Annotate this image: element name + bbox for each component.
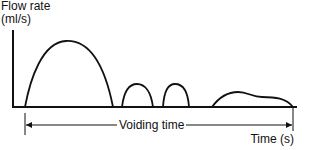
voiding-time-label: Voiding time (117, 118, 186, 132)
flow-curve-main (25, 41, 113, 107)
arrow-left-icon (26, 122, 32, 128)
arrow-right-icon (286, 122, 292, 128)
flow-curve-hump-3 (163, 84, 189, 107)
flow-curve-hump-4 (212, 92, 293, 107)
flow-curve-hump-2 (122, 84, 153, 107)
x-axis-label: Time (s) (250, 132, 294, 146)
